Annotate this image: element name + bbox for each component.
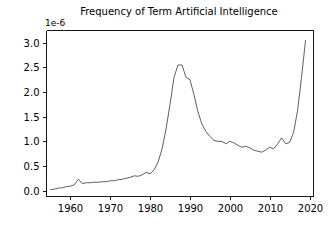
y-tick-label: 1.5 bbox=[24, 112, 40, 123]
frequency-line-chart: Frequency of Term Artificial Intelligenc… bbox=[0, 0, 328, 231]
x-tick-label: 1980 bbox=[138, 203, 163, 214]
y-axis-offset-label: 1e-6 bbox=[45, 18, 66, 28]
y-tick-label: 0.5 bbox=[24, 161, 40, 172]
x-tick-label: 1970 bbox=[98, 203, 123, 214]
chart-title: Frequency of Term Artificial Intelligenc… bbox=[80, 6, 278, 17]
x-tick-label: 2020 bbox=[298, 203, 323, 214]
chart-figure: Frequency of Term Artificial Intelligenc… bbox=[0, 0, 328, 231]
x-tick-label: 1990 bbox=[178, 203, 203, 214]
y-tick-label: 2.5 bbox=[24, 62, 40, 73]
y-tick-label: 2.0 bbox=[24, 87, 40, 98]
y-tick-label: 1.0 bbox=[24, 136, 40, 147]
x-tick-label: 1960 bbox=[58, 203, 83, 214]
x-tick-label: 2000 bbox=[218, 203, 243, 214]
x-tick-label: 2010 bbox=[258, 203, 283, 214]
y-tick-label: 3.0 bbox=[24, 38, 40, 49]
y-tick-label: 0.0 bbox=[24, 186, 40, 197]
